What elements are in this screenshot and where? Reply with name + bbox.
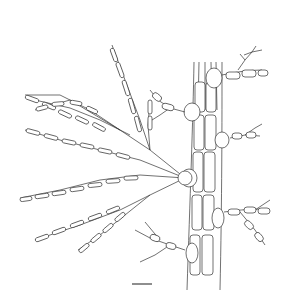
illustration-canvas: branched filamentous alga with polysipho… (0, 0, 304, 293)
junction-cell (178, 171, 192, 185)
filament-branches (20, 45, 185, 250)
right-branches (222, 46, 270, 245)
alga-drawing (0, 0, 304, 293)
